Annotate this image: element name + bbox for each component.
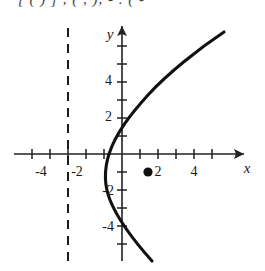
x-tick-label-2: 2 [155,164,162,179]
y-axis-label: y [105,26,114,42]
y-tick-label--2: -2 [102,183,114,198]
figure-container: [ ( ) ] , ( , ), - . ( - [0,0,265,271]
x-axis [14,149,244,159]
coordinate-plot-svg: -4 -2 2 4 4 2 -2 -4 y x [0,13,265,271]
plot-area: -4 -2 2 4 4 2 -2 -4 y x [0,13,265,271]
x-tick-label--2: -2 [71,164,83,179]
y-tick-label-4: 4 [105,73,112,88]
focus-point [143,167,152,176]
clipped-text-strip: [ ( ) ] , ( , ), - . ( - [0,0,265,13]
x-axis-label: x [243,160,251,176]
clipped-text: [ ( ) ] , ( , ), - . ( - [18,0,145,8]
x-tick-label-4: 4 [191,164,198,179]
y-tick-label--4: -4 [102,219,114,234]
parabola-curve [105,32,224,261]
x-tick-label--4: -4 [35,164,47,179]
y-tick-label-2: 2 [105,109,112,124]
